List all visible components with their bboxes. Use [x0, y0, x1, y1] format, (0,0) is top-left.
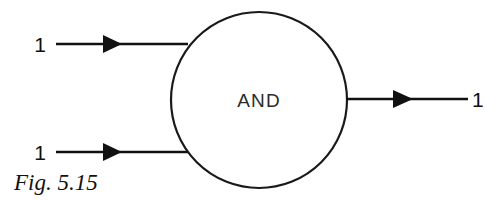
input-b-value-label: 1: [34, 141, 46, 164]
figure-container: AND 1 1 1 Fig. 5.15: [0, 0, 497, 200]
output-value-label: 1: [472, 88, 484, 111]
and-gate-label: AND: [237, 90, 281, 111]
input-a-value-label: 1: [34, 33, 46, 56]
logic-gate-diagram: AND 1 1 1 Fig. 5.15: [0, 0, 497, 200]
input-a-arrowhead: [103, 35, 122, 53]
input-b-arrowhead: [103, 143, 122, 161]
figure-caption: Fig. 5.15: [13, 170, 98, 195]
output-arrowhead: [393, 90, 413, 108]
